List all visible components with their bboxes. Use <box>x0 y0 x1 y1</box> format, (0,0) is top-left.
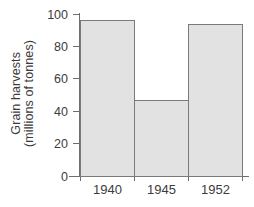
y-tick-label-0: 0 <box>61 171 68 184</box>
y-tick-label-20: 20 <box>54 138 68 151</box>
y-tick-label-60: 60 <box>54 73 68 86</box>
x-tick-label-1952: 1952 <box>188 183 243 196</box>
plot-area: 0 20 40 60 80 100 1940 1945 1952 <box>0 0 254 207</box>
y-tick-0 <box>73 176 80 177</box>
x-tick-label-1940: 1940 <box>80 183 135 196</box>
bar-1952[interactable] <box>188 24 243 177</box>
y-tick-label-100: 100 <box>47 9 68 22</box>
x-tick-boundary-2 <box>188 177 189 181</box>
y-tick-20 <box>73 143 80 144</box>
y-tick-40 <box>73 111 80 112</box>
y-tick-label-40: 40 <box>54 106 68 119</box>
x-tick-left-edge <box>80 177 81 181</box>
bar-chart-figure: Grain harvests (millions of tonnes) 0 20… <box>0 0 254 207</box>
bar-1945[interactable] <box>134 100 189 177</box>
y-tick-100 <box>73 14 80 15</box>
x-tick-boundary-1 <box>134 177 135 181</box>
y-tick-60 <box>73 78 80 79</box>
bar-1940[interactable] <box>80 20 135 177</box>
y-tick-80 <box>73 46 80 47</box>
x-tick-label-1945: 1945 <box>134 183 189 196</box>
x-tick-right-edge <box>242 177 243 181</box>
y-tick-label-80: 80 <box>54 41 68 54</box>
